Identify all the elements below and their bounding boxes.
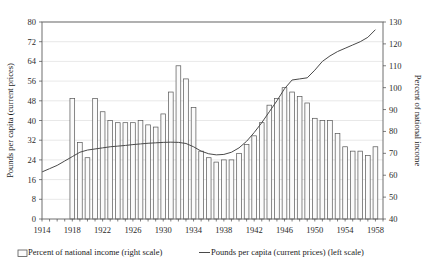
legend-label-percent-national-income: Percent of national income (right scale) xyxy=(28,247,162,257)
bar xyxy=(259,123,264,219)
y-axis-tick-label: 80 xyxy=(28,17,37,27)
y2-axis-tick-label: 40 xyxy=(389,214,398,224)
y2-axis-tick-label: 130 xyxy=(389,17,402,27)
y2-axis-tick-label: 120 xyxy=(389,39,402,49)
bar xyxy=(267,105,272,219)
x-axis-tick-label: 1938 xyxy=(215,225,232,235)
bar xyxy=(191,107,196,219)
bar xyxy=(123,123,128,219)
legend-label-pounds-per-capita: Pounds per capita (current prices) (left… xyxy=(211,247,364,257)
x-axis-tick-label: 1922 xyxy=(94,225,111,235)
x-axis-tick-label: 1918 xyxy=(64,225,81,235)
bar xyxy=(320,121,325,220)
bar xyxy=(206,158,211,219)
bar xyxy=(78,142,83,219)
bar xyxy=(229,160,234,219)
y-axis-tick-label: 72 xyxy=(28,37,37,47)
x-axis-tick-label: 1930 xyxy=(155,225,172,235)
y2-axis-tick-label: 50 xyxy=(389,192,398,202)
bar xyxy=(358,151,363,219)
x-axis-tick-label: 1942 xyxy=(246,225,263,235)
bar xyxy=(222,160,227,219)
y2-axis-title: Percent of national income xyxy=(413,75,423,167)
y-axis-tick-label: 0 xyxy=(32,214,36,224)
bar xyxy=(373,147,378,219)
bar xyxy=(305,103,310,219)
bar xyxy=(312,118,317,219)
y-axis-tick-label: 8 xyxy=(32,194,36,204)
bar xyxy=(85,158,90,219)
bar xyxy=(138,121,143,220)
y2-axis-tick-label: 70 xyxy=(389,148,398,158)
bar xyxy=(237,153,242,219)
x-axis-tick-label: 1934 xyxy=(185,225,203,235)
x-axis-tick-label: 1914 xyxy=(34,225,52,235)
chart-canvas: 0816243240485664728040506070809010011012… xyxy=(0,0,423,272)
y2-axis-tick-label: 80 xyxy=(389,126,398,136)
bar xyxy=(115,123,120,219)
x-axis-tick-label: 1946 xyxy=(276,225,293,235)
chart-container: 0816243240485664728040506070809010011012… xyxy=(0,0,423,272)
y2-axis-tick-label: 100 xyxy=(389,83,402,93)
bar xyxy=(343,147,348,219)
bar xyxy=(184,79,189,219)
bar xyxy=(365,156,370,219)
x-axis-tick-label: 1926 xyxy=(124,225,141,235)
y-axis-tick-label: 24 xyxy=(28,155,37,165)
bar xyxy=(199,151,204,219)
bar xyxy=(244,145,249,219)
x-axis-tick-label: 1954 xyxy=(337,225,355,235)
bar xyxy=(100,112,105,219)
bar xyxy=(252,136,257,219)
bar xyxy=(335,134,340,219)
bar xyxy=(282,88,287,219)
y-axis-tick-label: 32 xyxy=(28,135,37,145)
y2-axis-tick-label: 60 xyxy=(389,170,398,180)
y-axis-title: Pounds per capita (current prices) xyxy=(5,63,15,178)
bar xyxy=(297,96,302,219)
bar xyxy=(161,114,166,219)
bar xyxy=(153,127,158,219)
bar xyxy=(146,125,151,219)
bar xyxy=(328,121,333,220)
y2-axis-tick-label: 90 xyxy=(389,105,398,115)
y-axis-tick-label: 56 xyxy=(28,76,37,86)
bar xyxy=(70,99,75,219)
legend-swatch-bar xyxy=(18,250,27,257)
y-axis-tick-label: 48 xyxy=(28,96,37,106)
x-axis-tick-label: 1950 xyxy=(306,225,323,235)
y-axis-tick-label: 16 xyxy=(28,175,37,185)
bar xyxy=(168,92,173,219)
y-axis-tick-label: 40 xyxy=(28,116,37,126)
y2-axis-tick-label: 110 xyxy=(389,61,401,71)
bar xyxy=(214,162,219,219)
bar xyxy=(131,123,136,219)
bar xyxy=(108,121,113,220)
bar xyxy=(275,99,280,219)
bar xyxy=(93,99,98,219)
y-axis-tick-label: 64 xyxy=(28,56,37,66)
bar xyxy=(350,151,355,219)
x-axis-tick-label: 1958 xyxy=(367,225,384,235)
bar xyxy=(290,92,295,219)
